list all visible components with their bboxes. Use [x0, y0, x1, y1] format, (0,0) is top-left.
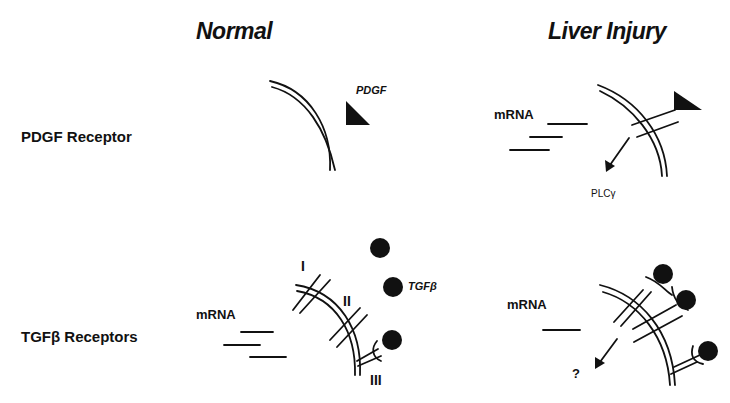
membrane-tgfb-injury — [600, 285, 675, 385]
tgfb-ligand-2 — [383, 277, 403, 297]
plc-gamma-label: PLCγ — [591, 188, 615, 199]
mrna-bars-tgfb-normal — [224, 332, 286, 357]
receptor-II — [330, 308, 367, 347]
mrna-label-tgfb-normal: mRNA — [196, 307, 236, 322]
tgfb-ligand-injury-2 — [676, 290, 696, 310]
receptor-type-III-label: III — [370, 372, 382, 388]
tgfb-label: TGFβ — [408, 280, 437, 292]
tgfb-ligand-3 — [382, 330, 402, 350]
tgfb-ligand-injury-3 — [698, 341, 718, 361]
row-label-tgfb-receptors: TGFβ Receptors — [21, 328, 138, 345]
mrna-label-pdgf-injury: mRNA — [494, 107, 534, 122]
tgfb-ligand-injury-1 — [653, 264, 673, 284]
unknown-arrow — [600, 339, 617, 362]
receptor-type-I-label: I — [301, 258, 305, 274]
plc-arrow — [610, 138, 629, 165]
receptor-type-II-label: II — [343, 293, 351, 309]
membrane-pdgf-normal — [270, 81, 330, 170]
tgfb-ligand-1 — [370, 238, 390, 258]
unknown-label: ? — [572, 366, 580, 381]
mrna-label-tgfb-injury: mRNA — [507, 297, 547, 312]
pdgf-ligand-injury — [674, 91, 702, 110]
mrna-bars-pdgf-injury — [510, 124, 587, 150]
pdgf-ligand-normal — [346, 101, 370, 125]
column-title-liver-injury: Liver Injury — [548, 18, 666, 45]
row-label-pdgf-receptor: PDGF Receptor — [21, 128, 132, 145]
receptor-I — [293, 275, 330, 313]
pdgf-label: PDGF — [356, 84, 387, 96]
column-title-normal: Normal — [196, 18, 272, 45]
